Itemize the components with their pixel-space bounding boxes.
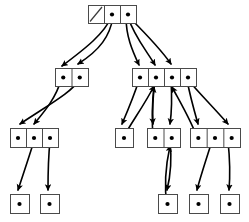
tree-edge	[48, 141, 50, 190]
pointer-dot-icon	[126, 12, 130, 16]
edges-layer	[18, 16, 230, 206]
pointer-dot-icon	[196, 136, 200, 140]
pointer-dot-icon	[61, 75, 65, 79]
tree-diagram-container	[0, 0, 249, 222]
tree-edge	[128, 17, 155, 65]
tree-edge	[18, 141, 34, 190]
tree-node-n2b[interactable]	[116, 129, 134, 148]
tree-edge	[197, 141, 212, 190]
pointer-dot-icon	[154, 75, 158, 79]
pointer-dot-icon	[186, 75, 190, 79]
pointer-dot-icon	[138, 75, 142, 79]
pointer-dot-icon	[78, 75, 82, 79]
pointer-dot-icon	[213, 136, 217, 140]
tree-edge	[189, 81, 228, 124]
pointer-dot-icon	[170, 136, 174, 140]
pointer-dot-icon	[17, 202, 21, 206]
tree-diagram-svg	[0, 0, 249, 222]
pointer-dot-icon	[32, 136, 36, 140]
tree-node-l4[interactable]	[190, 195, 209, 214]
tree-node-n1b[interactable]	[133, 69, 197, 87]
tree-node-l2[interactable]	[41, 195, 60, 214]
pointer-dot-icon	[122, 136, 126, 140]
tree-node-n2c[interactable]	[148, 129, 181, 148]
pointer-dot-icon	[47, 202, 51, 206]
tree-node-n1a[interactable]	[56, 69, 89, 87]
tree-node-n2d[interactable]	[191, 129, 241, 148]
pointer-dot-icon	[153, 136, 157, 140]
pointer-dot-icon	[48, 136, 52, 140]
pointer-dot-icon	[170, 75, 174, 79]
pointer-dot-icon	[16, 136, 20, 140]
tree-node-n2a[interactable]	[11, 129, 59, 148]
tree-node-l5[interactable]	[221, 195, 240, 214]
pointer-dot-icon	[227, 202, 231, 206]
pointer-dot-icon	[165, 202, 169, 206]
pointer-dot-icon	[110, 12, 114, 16]
tree-node-l3[interactable]	[159, 195, 178, 214]
tree-edge	[228, 141, 230, 190]
tree-node-l1[interactable]	[11, 195, 30, 214]
tree-node-root[interactable]	[89, 6, 137, 24]
pointer-dot-icon	[196, 202, 200, 206]
pointer-dot-icon	[230, 136, 234, 140]
